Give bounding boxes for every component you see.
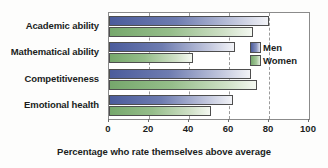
tick-label: 60: [223, 123, 234, 134]
category-label: Mathematical ability: [0, 39, 104, 66]
bar-women: [109, 53, 193, 63]
bar-men: [109, 16, 269, 26]
tick-label: 100: [300, 123, 316, 134]
legend-label-women: Women: [263, 55, 297, 66]
tick-label: 80: [263, 123, 274, 134]
tick-label: 20: [143, 123, 154, 134]
legend-swatch-men-icon: [250, 42, 261, 53]
tick-label: 0: [105, 123, 110, 134]
tick-mark: [228, 119, 229, 122]
legend-item-women: Women: [250, 55, 297, 66]
bar-series-container: [109, 13, 309, 119]
legend-label-men: Men: [263, 42, 282, 53]
tick-mark: [188, 119, 189, 122]
bar-women: [109, 80, 257, 90]
x-axis-title: Percentage who rate themselves above ave…: [0, 146, 328, 157]
bar-men: [109, 42, 235, 52]
tick-mark: [268, 119, 269, 122]
tick-label: 40: [183, 123, 194, 134]
tick-mark: [308, 119, 309, 122]
plot-area: [108, 12, 310, 120]
bar-men: [109, 95, 233, 105]
tick-mark: [148, 119, 149, 122]
bar-women: [109, 27, 253, 37]
bar-chart: Academic ability Mathematical ability Co…: [0, 0, 328, 168]
category-label: Emotional health: [0, 92, 104, 119]
x-axis-tick-labels: 020406080100: [108, 123, 308, 136]
legend-swatch-women-icon: [250, 55, 261, 66]
category-label: Academic ability: [0, 12, 104, 39]
tick-mark: [108, 119, 109, 122]
bar-group: [109, 13, 309, 40]
bar-group: [109, 93, 309, 120]
legend: Men Women: [250, 42, 297, 66]
bar-group: [109, 66, 309, 93]
bar-men: [109, 69, 251, 79]
legend-item-men: Men: [250, 42, 297, 53]
bar-women: [109, 106, 211, 116]
category-label: Competitiveness: [0, 65, 104, 92]
y-axis-category-labels: Academic ability Mathematical ability Co…: [0, 12, 104, 118]
